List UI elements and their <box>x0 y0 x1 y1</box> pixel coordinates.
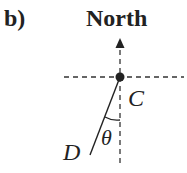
compass-diagram: b) North C D θ <box>0 0 187 173</box>
point-c-label: C <box>128 85 145 111</box>
panel-label: b) <box>4 5 25 31</box>
point-d-label: D <box>62 139 80 165</box>
point-c-dot <box>116 73 125 82</box>
north-arrow-icon <box>116 38 125 48</box>
angle-arc <box>105 117 120 120</box>
north-label: North <box>86 5 147 31</box>
angle-theta-label: θ <box>101 125 112 150</box>
